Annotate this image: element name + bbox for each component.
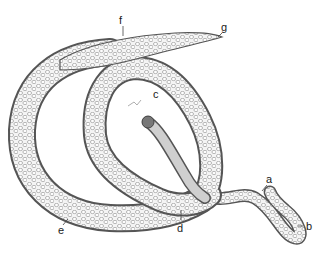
nematode-illustration: f g c a b d e (0, 0, 326, 256)
svg-text:c: c (153, 88, 159, 100)
svg-text:a: a (266, 173, 273, 185)
label-c: c (153, 88, 159, 100)
label-g: g (218, 21, 227, 37)
svg-text:b: b (306, 220, 312, 232)
label-f: f (119, 14, 123, 36)
sketch-marks (128, 100, 141, 106)
svg-text:d: d (177, 222, 183, 234)
svg-text:g: g (221, 21, 227, 33)
svg-text:e: e (58, 224, 64, 236)
svg-text:f: f (119, 14, 123, 26)
